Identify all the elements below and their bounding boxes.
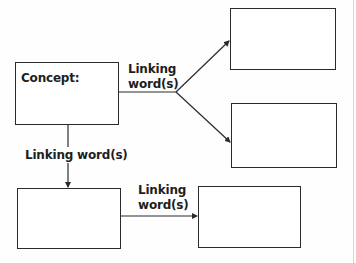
concept-label: Concept: xyxy=(21,71,79,85)
arrow-to-middle-right xyxy=(176,92,230,142)
concept-map-canvas: Concept: Linking word(s) Linking word(s)… xyxy=(0,0,356,263)
middle-right-box[interactable] xyxy=(231,103,337,168)
linking-words-branch-label: Linking word(s) xyxy=(128,62,179,92)
bottom-right-box[interactable] xyxy=(198,186,301,248)
bottom-left-box[interactable] xyxy=(17,188,121,249)
page-edge-divider xyxy=(353,0,354,263)
top-right-box[interactable] xyxy=(230,8,336,70)
link-label-line1: Linking xyxy=(138,183,189,198)
link-label-line2: word(s) xyxy=(138,198,189,213)
concept-box[interactable]: Concept: xyxy=(15,62,119,125)
arrow-to-top-right xyxy=(176,41,229,92)
link-label-line1: Linking xyxy=(128,62,179,77)
link-label-line2: word(s) xyxy=(128,77,179,92)
linking-words-bottom-label: Linking word(s) xyxy=(138,183,189,213)
linking-words-vertical-label: Linking word(s) xyxy=(25,148,128,163)
